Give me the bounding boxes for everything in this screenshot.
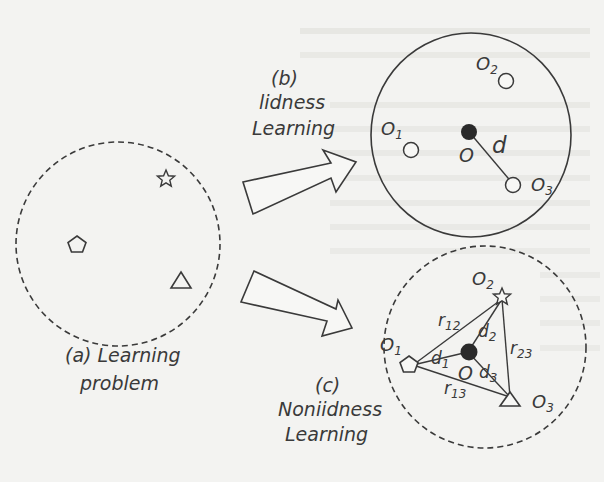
- distance-label-d: d: [492, 132, 507, 158]
- node-o1-label: O1: [381, 118, 403, 142]
- node-o3-label: O3: [532, 391, 554, 415]
- center-o: [461, 124, 477, 140]
- panel-a-boundary: [16, 142, 220, 346]
- node-o1: [404, 143, 419, 158]
- label-d1: d1: [431, 348, 449, 371]
- panel-a-label-line1: (a) Learning: [65, 344, 181, 366]
- panel-c-label-line1: (c): [315, 374, 340, 396]
- arrow-a-to-c: [241, 271, 352, 336]
- pentagon-icon: [400, 356, 418, 372]
- panel-b-label-line2: lidness: [259, 91, 325, 113]
- panel-c: (c) Noniidness Learning O2 O1 O3 O r12 r…: [278, 246, 586, 448]
- label-r23: r23: [510, 338, 532, 361]
- triangle-icon: [171, 272, 191, 288]
- panel-b-label-line1: (b): [271, 67, 298, 89]
- star-icon: [157, 170, 174, 186]
- panel-c-label-line3: Learning: [285, 423, 368, 445]
- node-o1-label: O1: [380, 334, 402, 358]
- center-o-label: O: [459, 144, 474, 166]
- panel-b: (b) lidness Learning O2 O1 O d O3: [252, 33, 571, 237]
- pentagon-icon: [68, 236, 86, 252]
- figure: (a) Learning problem (b) lidness Learnin…: [0, 0, 604, 482]
- node-o2-label: O2: [472, 268, 494, 292]
- label-d3: d3: [479, 362, 497, 385]
- panel-b-label-line3: Learning: [252, 117, 335, 139]
- label-r12: r12: [438, 310, 460, 333]
- node-o2: [499, 74, 514, 89]
- center-o: [461, 344, 478, 361]
- center-o-label: O: [458, 362, 473, 384]
- panel-a-label-line2: problem: [79, 372, 159, 394]
- node-o3: [506, 178, 521, 193]
- panel-c-label-line2: Noniidness: [278, 398, 382, 420]
- label-d2: d2: [478, 321, 496, 344]
- panel-a: (a) Learning problem: [16, 142, 220, 394]
- edge-r23: [502, 299, 510, 397]
